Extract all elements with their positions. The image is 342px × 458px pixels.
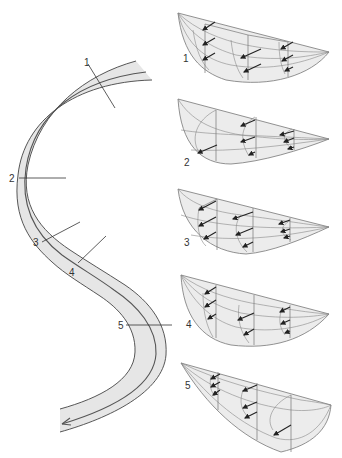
block-label-5: 5	[185, 380, 191, 391]
velocity-block-1: 1	[178, 13, 329, 82]
section-label-5: 5	[118, 320, 124, 331]
velocity-block-4: 4	[181, 275, 329, 346]
block-outline	[178, 13, 329, 82]
section-label-3: 3	[33, 237, 39, 248]
velocity-block-2: 2	[178, 99, 329, 168]
block-outline	[178, 189, 329, 254]
velocity-block-5: 5	[181, 363, 331, 452]
section-line-4	[78, 236, 106, 263]
block-outline	[181, 275, 329, 346]
section-label-1: 1	[84, 57, 90, 68]
channel-band	[17, 61, 166, 432]
meandering-channel	[17, 61, 166, 432]
diagram-canvas: 1 2 3 4 5 1	[0, 0, 342, 458]
section-label-2: 2	[9, 173, 15, 184]
block-label-2: 2	[184, 157, 190, 168]
velocity-block-3: 3	[178, 189, 329, 254]
section-label-4: 4	[69, 267, 75, 278]
block-outline	[181, 363, 331, 452]
block-label-1: 1	[183, 53, 189, 64]
block-label-3: 3	[184, 237, 190, 248]
block-label-4: 4	[186, 319, 192, 330]
